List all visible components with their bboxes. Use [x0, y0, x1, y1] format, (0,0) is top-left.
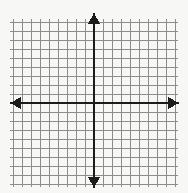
graph-svg-surface — [0, 0, 188, 193]
coordinate-grid-graph — [0, 0, 188, 193]
